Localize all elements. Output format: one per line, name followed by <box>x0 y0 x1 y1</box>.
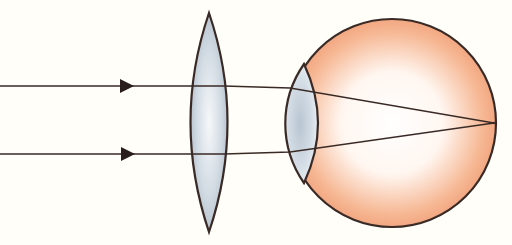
focal-point <box>493 122 495 124</box>
eyeball <box>288 19 496 227</box>
arrow-right-icon <box>121 147 135 161</box>
diagram-canvas <box>0 0 512 245</box>
arrow-right-icon <box>120 79 134 93</box>
optics-diagram <box>0 0 512 245</box>
corrective-convex-lens <box>191 13 228 232</box>
ray-arrows <box>120 79 135 161</box>
